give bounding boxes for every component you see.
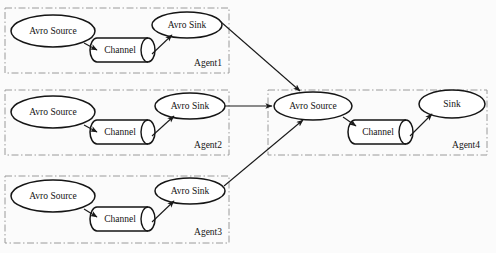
agent-label-agent3: Agent3 bbox=[194, 227, 222, 237]
agent-label-agent1: Agent1 bbox=[194, 58, 222, 68]
connector-agent3-sink-to-agent4-source bbox=[224, 120, 303, 186]
node-label-avro-sink-agent1: Avro Sink bbox=[168, 20, 207, 30]
node-label-avro-source-agent4: Avro Source bbox=[289, 101, 337, 111]
connector-channel-to-sink-agent4 bbox=[410, 114, 432, 136]
connector-agent1-sink-to-agent4-source bbox=[221, 22, 300, 91]
node-label-avro-source-agent2: Avro Source bbox=[29, 107, 77, 117]
diagram-canvas: Agent1 Avro Source Channel Avro Sink Age… bbox=[0, 0, 496, 253]
node-label-channel-agent1: Channel bbox=[104, 45, 136, 55]
node-label-channel-agent3: Channel bbox=[104, 214, 136, 224]
node-label-avro-sink-agent3: Avro Sink bbox=[171, 186, 210, 196]
node-label-avro-sink-agent2: Avro Sink bbox=[171, 101, 210, 111]
node-label-avro-source-agent1: Avro Source bbox=[29, 26, 77, 36]
connector-channel-to-sink-agent2 bbox=[152, 116, 174, 136]
flume-topology-diagram: Agent1 Avro Source Channel Avro Sink Age… bbox=[0, 0, 496, 253]
node-label-sink-agent4: Sink bbox=[443, 99, 461, 109]
agent-group-agent1[interactable]: Agent1 Avro Source Channel Avro Sink bbox=[5, 8, 229, 73]
node-label-channel-agent2: Channel bbox=[104, 127, 136, 137]
agent-group-agent2[interactable]: Agent2 Avro Source Channel Avro Sink bbox=[5, 90, 229, 155]
node-label-avro-source-agent3: Avro Source bbox=[29, 191, 77, 201]
connector-channel-to-sink-agent3 bbox=[152, 201, 174, 222]
agent-group-agent3[interactable]: Agent3 Avro Source Channel Avro Sink bbox=[5, 176, 229, 243]
agent-label-agent2: Agent2 bbox=[194, 140, 222, 150]
agent-label-agent4: Agent4 bbox=[452, 140, 480, 150]
node-label-channel-agent4: Channel bbox=[362, 127, 394, 137]
